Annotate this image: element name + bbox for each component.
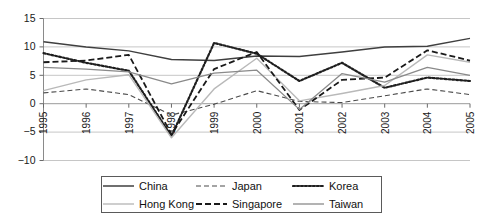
legend-label: Korea [329, 181, 358, 192]
chart-legend: ChinaJapanKoreaHong KongSingaporeTaiwan [101, 176, 382, 213]
x-tick-label: 2002 [337, 111, 348, 134]
legend-label: China [139, 181, 168, 192]
x-axis-ticks [44, 104, 471, 108]
legend-swatch-china [102, 181, 135, 191]
y-tick-label: 15 [24, 12, 36, 24]
legend-swatch-hong-kong [102, 199, 135, 209]
series-line-taiwan [44, 67, 471, 109]
y-tick-label: 0 [30, 97, 36, 109]
legend-item-taiwan[interactable]: Taiwan [292, 199, 383, 210]
x-axis-tick-labels: 1995199619971998199920002001200220032004… [39, 111, 477, 134]
y-tick-label: 10 [24, 40, 36, 52]
legend-swatch-japan [195, 181, 228, 191]
legend-label: Singapore [232, 199, 282, 210]
x-tick-label: 1997 [124, 111, 135, 134]
legend-swatch-korea [292, 181, 325, 191]
legend-label: Hong Kong [139, 199, 194, 210]
legend-item-japan[interactable]: Japan [195, 181, 292, 192]
legend-label: Japan [232, 181, 262, 192]
legend-item-korea[interactable]: Korea [292, 181, 383, 192]
x-tick-label: 2004 [422, 111, 433, 134]
y-axis-ticks [40, 19, 44, 161]
x-tick-label: 1995 [39, 111, 50, 134]
y-axis-tick-labels: 151050−5−10 [18, 12, 36, 166]
x-tick-label: 2000 [252, 111, 263, 134]
legend-label: Taiwan [329, 199, 363, 210]
legend-swatch-taiwan [292, 199, 325, 209]
x-tick-label: 2005 [465, 111, 476, 134]
x-tick-label: 2001 [294, 111, 305, 134]
x-tick-label: 2003 [380, 111, 391, 134]
y-tick-label: −10 [18, 154, 36, 166]
legend-swatch-singapore [195, 199, 228, 209]
line-chart: 151050−5−10 1995199619971998199920002001… [0, 0, 483, 223]
series-line-japan [44, 89, 471, 115]
gridlines [44, 19, 471, 161]
legend-item-singapore[interactable]: Singapore [195, 199, 292, 210]
y-tick-label: 5 [30, 69, 36, 81]
legend-item-china[interactable]: China [102, 181, 195, 192]
y-tick-label: −5 [24, 125, 36, 137]
x-tick-label: 1996 [81, 111, 92, 134]
x-tick-label: 1999 [209, 111, 220, 134]
legend-item-hong-kong[interactable]: Hong Kong [102, 199, 195, 210]
